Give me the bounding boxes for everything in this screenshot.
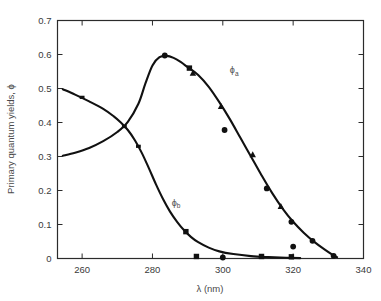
- y-axis-title: Primary quantum yields, ϕ: [5, 84, 16, 194]
- marker-tick: [122, 125, 127, 128]
- y-tick-label: 0.6: [38, 49, 51, 60]
- quantum-yield-chart: 260280300320340 00.10.20.30.40.50.60.7 ϕ…: [0, 0, 381, 301]
- marker-circle: [290, 244, 296, 250]
- y-tick-label: 0.7: [38, 15, 51, 26]
- marker-circle: [289, 219, 295, 225]
- x-tick-label: 260: [74, 264, 90, 275]
- x-axis-title: λ (nm): [197, 283, 224, 294]
- marker-circle: [264, 186, 270, 192]
- marker-tick: [80, 96, 85, 99]
- y-tick-label: 0.5: [38, 83, 51, 94]
- y-tick-label: 0.1: [38, 219, 51, 230]
- x-tick-label: 280: [145, 264, 161, 275]
- x-tick-label: 320: [285, 264, 301, 275]
- y-tick-label: 0.3: [38, 151, 51, 162]
- marker-circle: [222, 127, 228, 133]
- y-tick-label: 0.4: [38, 117, 51, 128]
- marker-square: [289, 254, 294, 259]
- marker-square: [259, 254, 264, 259]
- marker-circle: [310, 238, 316, 244]
- marker-square: [183, 229, 188, 234]
- marker-circle: [220, 255, 226, 261]
- y-tick-label: 0.2: [38, 185, 51, 196]
- y-tick-label: 0: [46, 253, 51, 264]
- marker-square: [187, 65, 192, 70]
- x-tick-label: 300: [215, 264, 231, 275]
- x-tick-label: 340: [356, 264, 372, 275]
- marker-circle: [331, 253, 337, 259]
- marker-tick: [136, 145, 141, 148]
- marker-circle: [162, 53, 168, 59]
- marker-square: [194, 254, 199, 259]
